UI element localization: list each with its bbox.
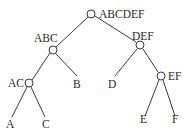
tree-diagram: ABCDEF ABC DEF AC B D EF A C E F <box>0 0 186 136</box>
edge-ABCDEF-ABC <box>56 17 88 47</box>
edge-ABC-B <box>56 54 77 76</box>
edge-EF-E <box>145 80 159 116</box>
edge-AC-A <box>12 87 27 117</box>
node-AC <box>25 79 33 87</box>
edge-ABC-AC <box>32 53 50 80</box>
node-ABCDEF <box>87 10 95 18</box>
label-F: F <box>172 113 178 125</box>
label-B: B <box>73 78 81 90</box>
node-EF <box>157 72 165 80</box>
edge-AC-C <box>31 87 45 117</box>
edge-EF-F <box>163 80 175 116</box>
label-AC: AC <box>8 77 24 89</box>
edge-DEF-D <box>115 49 137 76</box>
nodes <box>25 10 165 87</box>
label-ABC: ABC <box>34 32 58 44</box>
label-A: A <box>6 118 15 130</box>
label-DEF: DEF <box>132 30 154 42</box>
label-ABCDEF: ABCDEF <box>99 8 144 20</box>
label-EF: EF <box>168 70 181 82</box>
label-E: E <box>140 113 147 125</box>
label-D: D <box>108 78 116 90</box>
labels: ABCDEF ABC DEF AC B D EF A C E F <box>6 8 181 130</box>
label-C: C <box>42 118 50 130</box>
node-ABC <box>49 46 57 54</box>
edge-DEF-EF <box>143 49 158 72</box>
node-DEF <box>136 41 144 49</box>
